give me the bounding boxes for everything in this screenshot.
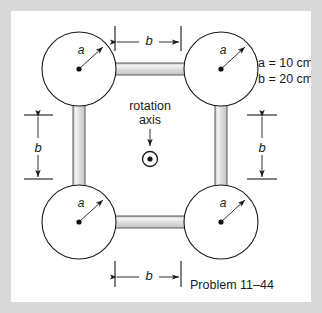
rotation-axis-annotation: rotation axis: [129, 99, 171, 167]
dimension-bottom: b: [115, 261, 181, 287]
disk-top-right: a: [184, 32, 258, 106]
rotation-axis-label-line1: rotation: [129, 99, 171, 113]
dimension-left: b: [24, 115, 53, 179]
physics-diagram: a a a a: [11, 11, 311, 302]
dimension-label: b: [145, 33, 152, 48]
figure-root: a a a a: [0, 0, 322, 313]
disk-bottom-left: a: [42, 185, 116, 259]
disk-radius-label: a: [78, 196, 85, 210]
dimension-label: b: [258, 140, 265, 155]
figure-panel: a a a a: [11, 11, 311, 302]
out-of-page-axis-dot: [147, 156, 152, 161]
disk-radius-label: a: [78, 43, 85, 57]
disk-radius-label: a: [220, 196, 227, 210]
disk-top-left: a: [42, 32, 116, 106]
rod-left: [73, 101, 85, 191]
dimension-label: b: [145, 268, 152, 283]
figure-caption: Problem 11–44: [190, 278, 274, 292]
dimension-top: b: [115, 26, 181, 51]
legend-radius-line: a = 10 cm: [258, 56, 311, 70]
dimension-label: b: [34, 140, 41, 155]
dimension-right: b: [247, 115, 277, 179]
rod-right: [215, 101, 227, 191]
disk-radius-label: a: [220, 43, 227, 57]
disk-bottom-right: a: [184, 185, 258, 259]
legend-side-line: b = 20 cm: [258, 72, 311, 86]
rotation-axis-label-line2: axis: [139, 113, 161, 127]
legend: a = 10 cm b = 20 cm: [258, 56, 311, 86]
